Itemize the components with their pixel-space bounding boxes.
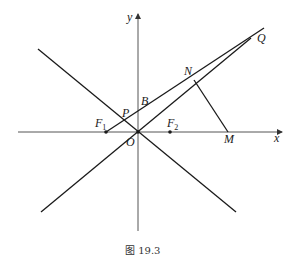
y-axis-label: y (126, 10, 133, 24)
figure-caption: 图 19.3 (125, 245, 160, 256)
asymptote-ascending (41, 38, 251, 212)
origin-label: O (126, 135, 135, 149)
label-b: B (141, 94, 149, 108)
segment-n-m (194, 80, 228, 132)
label-q: Q (257, 31, 266, 45)
x-axis-label: x (273, 131, 280, 145)
label-f1: F1 (94, 116, 106, 132)
asymptote-descending (38, 49, 236, 212)
label-p: P (121, 106, 130, 120)
hyperbola-asymptote-diagram: y x O F1 F2 P B N Q M 图 19.3 (0, 0, 298, 266)
label-n: N (183, 64, 193, 78)
label-f1-sub: 1 (102, 123, 106, 132)
label-f2-sub: 2 (174, 123, 178, 132)
label-f2: F2 (166, 116, 178, 132)
label-m: M (223, 132, 235, 146)
point-f2 (168, 130, 172, 134)
point-o (136, 130, 140, 134)
line-f1-q (106, 28, 264, 132)
